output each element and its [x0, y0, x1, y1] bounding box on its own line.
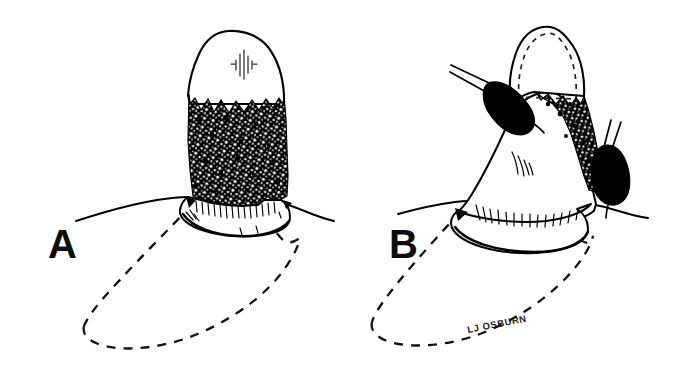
panel-a-label: A	[48, 222, 77, 266]
panel-b-label: B	[389, 222, 418, 266]
figure-root: A	[0, 0, 682, 372]
dental-illustration-svg: A	[0, 0, 682, 372]
panel-a-calculus-deposit	[180, 88, 295, 213]
